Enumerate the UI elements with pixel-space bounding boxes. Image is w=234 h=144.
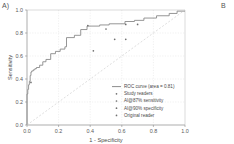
data-point-marker: [87, 25, 89, 27]
panel-a-label: A): [2, 2, 9, 9]
x-tick-label: 1.0: [181, 128, 189, 134]
x-tick-label: 0.8: [150, 128, 158, 134]
legend-label: AI@90% specificity: [124, 106, 164, 111]
data-point-marker: [114, 38, 116, 40]
legend-point-swatch: [116, 115, 118, 117]
x-tick-label: 0.0: [23, 128, 31, 134]
legend-label: ROC curve (area = 0.81): [124, 84, 175, 89]
roc-figure: A) B 0.00.20.40.60.81.00.00.20.40.60.81.…: [0, 0, 234, 144]
data-point-marker: [30, 82, 32, 84]
x-axis-title: 1 - Specificity: [89, 137, 122, 143]
data-point-marker: [125, 24, 127, 26]
legend-point-swatch: [116, 107, 118, 109]
y-tick-label: 0.4: [16, 76, 24, 82]
y-tick-label: 0.6: [16, 53, 24, 59]
x-tick-label: 0.2: [55, 128, 63, 134]
y-tick-label: 0.0: [16, 122, 24, 128]
legend-label: Original reader: [124, 113, 155, 118]
y-tick-label: 0.8: [16, 30, 24, 36]
roc-chart: 0.00.20.40.60.81.00.00.20.40.60.81.01 - …: [0, 0, 234, 144]
data-point-marker: [125, 38, 127, 40]
data-point-marker: [137, 24, 139, 26]
legend-point-swatch: [116, 100, 118, 102]
legend-label: Study readers: [124, 91, 153, 96]
panel-b-label: B: [221, 2, 226, 9]
y-axis-title: Sensitivity: [7, 55, 13, 80]
x-tick-label: 0.4: [86, 128, 94, 134]
x-tick-label: 0.6: [118, 128, 126, 134]
data-point-marker: [93, 50, 95, 52]
legend-point-swatch: [116, 93, 118, 95]
y-tick-label: 0.2: [16, 99, 24, 105]
y-tick-label: 1.0: [16, 7, 24, 13]
legend-label: AI@87% sensitivity: [124, 98, 164, 103]
data-point-marker: [105, 28, 107, 30]
